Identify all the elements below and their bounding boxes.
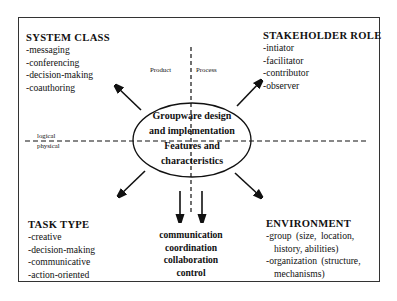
stakeholder-role-title: STAKEHOLDER ROLE (263, 29, 382, 42)
outcome-item: communication (140, 229, 242, 242)
arrow-to-stakeholder-role (237, 81, 261, 106)
center-line: and implementation (133, 123, 251, 138)
list-item: -intiator (263, 42, 382, 55)
center-line: Groupware design (133, 108, 251, 123)
stakeholder-role-block: STAKEHOLDER ROLE -intiator -facilitator … (263, 29, 382, 92)
process-label: Process (196, 66, 217, 74)
list-item: -group (size, location, (266, 230, 361, 243)
arrow-to-system-class (116, 86, 141, 110)
list-item: -coauthoring (26, 82, 110, 95)
list-item: history, abilities) (266, 243, 361, 256)
product-label: Product (150, 66, 171, 74)
list-item: -contributor (263, 67, 382, 80)
list-item: -conferencing (26, 57, 110, 70)
list-item: -decision-making (26, 69, 110, 82)
physical-label: physical (37, 142, 60, 150)
list-item: -messaging (26, 44, 110, 57)
system-class-title: SYSTEM CLASS (26, 31, 110, 44)
task-type-title: TASK TYPE (28, 218, 95, 231)
environment-block: ENVIRONMENT -group (size, location, hist… (266, 217, 361, 280)
arrow-to-task-type (119, 171, 145, 196)
outcome-item: coordination (140, 242, 242, 255)
environment-title: ENVIRONMENT (266, 217, 361, 230)
outcome-item: collaboration (140, 254, 242, 267)
list-item: -organization (structure, (266, 255, 361, 268)
center-line: characteristics (133, 153, 251, 168)
list-item: -decision-making (28, 244, 95, 257)
center-label: Groupware design and implementation Feat… (133, 108, 251, 168)
outcomes-block: communication coordination collaboration… (140, 229, 242, 279)
list-item: -creative (28, 231, 95, 244)
arrow-to-environment (235, 173, 261, 197)
logical-label: logical (37, 132, 56, 140)
list-item: mechanisms) (266, 268, 361, 281)
list-item: -observer (263, 80, 382, 93)
list-item: -communicative (28, 256, 95, 269)
list-item: -action-oriented (28, 269, 95, 282)
outcome-item: control (140, 267, 242, 280)
task-type-block: TASK TYPE -creative -decision-making -co… (28, 218, 95, 281)
list-item: -facilitator (263, 55, 382, 68)
center-line: Features and (133, 138, 251, 153)
system-class-block: SYSTEM CLASS -messaging -conferencing -d… (26, 31, 110, 94)
